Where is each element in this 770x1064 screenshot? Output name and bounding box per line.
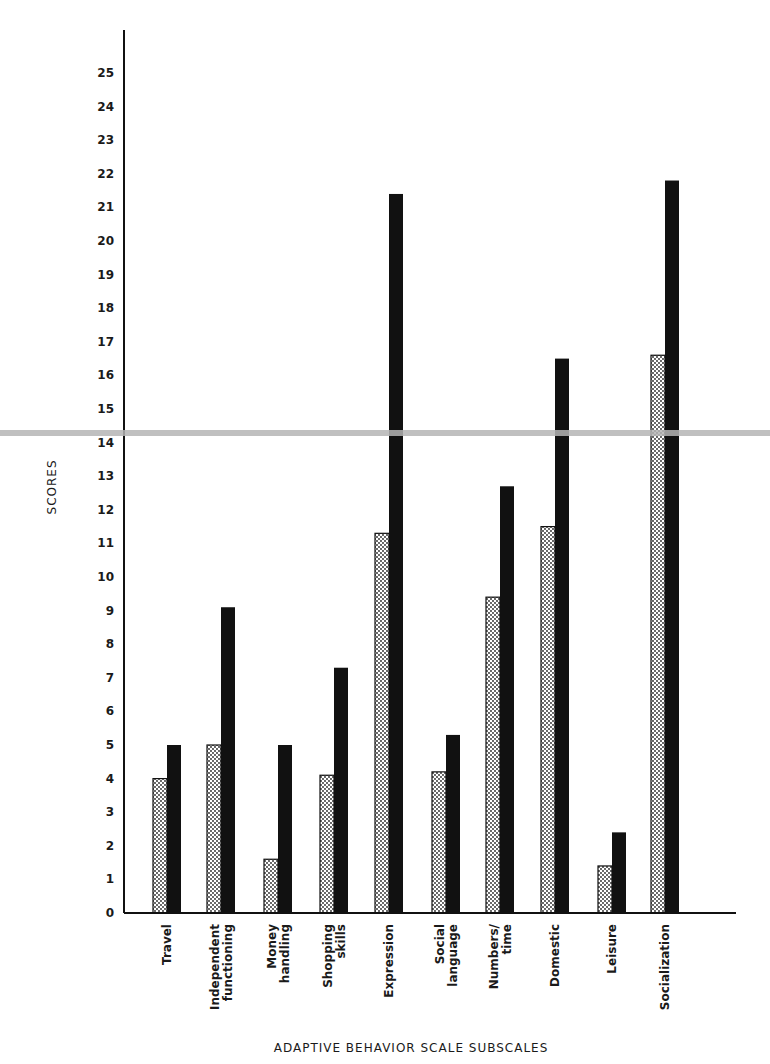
y-tick-label: 5: [106, 738, 114, 752]
y-tick-label: 14: [97, 436, 114, 450]
bar-dotted: [153, 779, 167, 913]
category-label: Independent: [208, 924, 222, 1010]
y-tick-label: 15: [97, 402, 114, 416]
category-label: Domestic: [548, 924, 562, 987]
bar-solid: [334, 668, 348, 913]
bars: [153, 181, 679, 913]
bar-solid: [278, 745, 292, 913]
y-tick-label: 0: [106, 906, 114, 920]
y-tick-label: 2: [106, 839, 114, 853]
y-tick-label: 10: [97, 570, 114, 584]
bar-solid: [167, 745, 181, 913]
bar-solid: [389, 194, 403, 913]
bar-dotted: [541, 527, 555, 913]
y-tick-label: 16: [97, 368, 114, 382]
bar-chart: 0123456789101112131415161718192021222324…: [0, 0, 770, 1064]
bar-solid: [221, 607, 235, 913]
category-label: Travel: [160, 924, 174, 965]
y-tick-label: 7: [106, 671, 114, 685]
bar-solid: [665, 181, 679, 913]
y-tick-label: 17: [97, 335, 114, 349]
category-label: Socialization: [658, 924, 672, 1010]
y-tick-label: 6: [106, 704, 114, 718]
y-tick-label: 3: [106, 805, 114, 819]
y-tick-label: 9: [106, 604, 114, 618]
y-tick-label: 22: [97, 167, 114, 181]
bar-group: [153, 745, 181, 913]
bar-group: [486, 486, 514, 913]
category-label: skills: [334, 924, 348, 959]
bar-dotted: [320, 775, 334, 913]
bar-dotted: [264, 859, 278, 913]
bar-dotted: [432, 772, 446, 913]
category-label: Money: [265, 924, 279, 969]
y-tick-label: 8: [106, 637, 114, 651]
y-tick-label: 20: [97, 234, 114, 248]
y-axis-title: SCORES: [45, 460, 59, 515]
bar-dotted: [207, 745, 221, 913]
y-tick-label: 4: [106, 772, 114, 786]
scan-artifact-line: [0, 430, 770, 436]
category-label: language: [446, 924, 460, 987]
bar-solid: [612, 832, 626, 913]
y-tick-label: 23: [97, 133, 114, 147]
category-label: Leisure: [605, 924, 619, 974]
bar-dotted: [375, 533, 389, 913]
bar-group: [264, 745, 292, 913]
x-axis-title: ADAPTIVE BEHAVIOR SCALE SUBSCALES: [274, 1041, 549, 1055]
y-tick-label: 21: [97, 200, 114, 214]
y-tick-label: 12: [97, 503, 114, 517]
category-label: Expression: [382, 924, 396, 998]
bar-dotted: [598, 866, 612, 913]
bar-group: [541, 359, 569, 913]
bar-solid: [446, 735, 460, 913]
bar-group: [598, 832, 626, 913]
y-axis: 0123456789101112131415161718192021222324…: [97, 30, 124, 920]
y-tick-label: 19: [97, 268, 114, 282]
bar-dotted: [486, 597, 500, 913]
bar-dotted: [651, 355, 665, 913]
category-label: time: [500, 924, 514, 955]
bar-group: [207, 607, 235, 913]
bar-solid: [555, 359, 569, 913]
y-tick-label: 1: [106, 872, 114, 886]
category-label: Numbers/: [487, 923, 501, 989]
y-tick-label: 11: [97, 536, 114, 550]
bar-group: [375, 194, 403, 913]
y-tick-label: 25: [97, 66, 114, 80]
bar-group: [651, 181, 679, 913]
y-tick-label: 13: [97, 469, 114, 483]
category-label: handling: [278, 924, 292, 983]
category-labels: TravelIndependentfunctioningMoneyhandlin…: [160, 923, 672, 1010]
bar-solid: [500, 486, 514, 913]
bar-group: [432, 735, 460, 913]
category-label: Social: [433, 924, 447, 964]
category-label: Shopping: [321, 924, 335, 988]
y-tick-label: 18: [97, 301, 114, 315]
bar-group: [320, 668, 348, 913]
y-tick-label: 24: [97, 100, 114, 114]
category-label: functioning: [221, 924, 235, 1001]
